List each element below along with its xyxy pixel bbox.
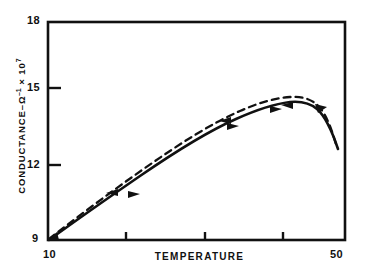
y-tick-label-18: 18 xyxy=(27,14,40,26)
plot-area xyxy=(0,0,369,273)
y-tick-label-9: 9 xyxy=(32,232,39,244)
y-axis-title: CONDUCTANCE–Ω–1 × 107 xyxy=(15,11,27,241)
y-axis-title-multiplier: × 10 xyxy=(16,62,27,84)
y-tick-label-12: 12 xyxy=(27,158,40,170)
y-axis-title-multiplier-exponent: 7 xyxy=(15,58,22,62)
arrow-solid-right-upper xyxy=(270,106,282,113)
curve-dashed-decreasing-temperature xyxy=(49,97,337,239)
y-axis-title-omega-exponent: –1 xyxy=(15,88,22,96)
y-axis-title-omega: Ω xyxy=(16,96,27,104)
y-tick-label-15: 15 xyxy=(27,81,40,93)
curve-solid-increasing-temperature xyxy=(49,102,338,240)
y-axis-title-prefix: CONDUCTANCE– xyxy=(16,104,27,194)
figure-conductance-vs-temperature: 18 15 12 9 10 50 TEMPERATURE CONDUCTANCE… xyxy=(0,0,369,273)
x-axis-title: TEMPERATURE xyxy=(0,251,369,262)
arrow-solid-right-mid xyxy=(227,123,239,130)
arrow-solid-right-lower xyxy=(128,191,140,198)
